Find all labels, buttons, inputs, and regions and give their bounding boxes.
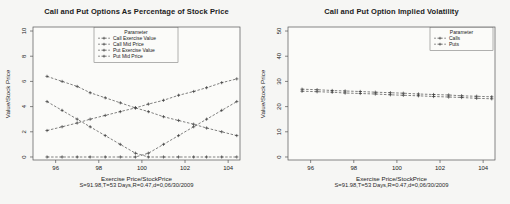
y-tick-label: 6 — [22, 79, 28, 83]
x-tick-label: 104 — [223, 165, 234, 171]
left-x-axis-sublabel: S=91.98,T=53 Days,R=0.47,d=0,06/30/2009 — [33, 182, 240, 188]
x-tick-label: 102 — [435, 165, 446, 171]
options-percentage-chart: 96981001021040246810ParameterCall Exerci… — [0, 0, 255, 204]
y-tick-label: 10 — [277, 128, 283, 135]
legend-entry-label: Puts — [449, 41, 460, 47]
y-tick-label: 40 — [277, 52, 283, 59]
left-chart-panel: Call and Put Options As Percentage of St… — [0, 0, 255, 204]
y-tick-label: 2 — [22, 129, 28, 133]
y-tick-label: 50 — [277, 27, 283, 34]
y-tick-label: 0 — [22, 155, 28, 159]
x-tick-label: 96 — [307, 165, 314, 171]
x-tick-label: 96 — [52, 165, 59, 171]
legend-entry-label: Put Mid Price — [113, 53, 143, 59]
x-tick-label: 104 — [478, 165, 489, 171]
x-tick-label: 100 — [137, 165, 148, 171]
legend-title: Parameter — [124, 29, 148, 35]
y-tick-label: 30 — [277, 77, 283, 84]
legend-title: Parameter — [450, 29, 474, 35]
y-tick-label: 8 — [22, 54, 28, 58]
right-x-axis-sublabel: S=91.98,T=53 Days,R=0.47,d=0,06/30/2009 — [288, 182, 495, 188]
implied-volatility-chart: 969810010210401020304050ParameterCallsPu… — [255, 0, 510, 204]
x-tick-label: 100 — [392, 165, 403, 171]
x-tick-label: 102 — [180, 165, 191, 171]
x-tick-label: 98 — [350, 165, 357, 171]
y-tick-label: 10 — [21, 27, 27, 34]
x-tick-label: 98 — [95, 165, 102, 171]
y-tick-label: 0 — [277, 155, 283, 159]
y-tick-label: 20 — [277, 103, 283, 110]
y-tick-label: 4 — [22, 104, 28, 108]
right-x-axis-label: Exercise Price/StockPrice — [288, 175, 495, 182]
right-chart-panel: Call and Put Option Implied Volatility V… — [255, 0, 510, 204]
dual-option-charts-screenshot: Call and Put Options As Percentage of St… — [0, 0, 510, 204]
left-x-axis-label: Exercise Price/StockPrice — [33, 175, 240, 182]
